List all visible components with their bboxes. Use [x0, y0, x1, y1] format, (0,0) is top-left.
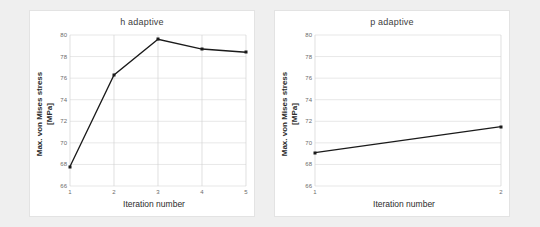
plot-area-h-adaptive: 666870727476788012345	[70, 35, 246, 186]
x-axis-tick-label: 1	[313, 189, 316, 195]
x-axis-tick-label: 2	[499, 189, 502, 195]
data-point-marker	[201, 48, 204, 51]
data-point-marker	[500, 125, 503, 128]
y-axis-tick-label: 78	[305, 54, 312, 60]
plot-area-p-adaptive: 666870727476788012	[315, 35, 501, 186]
y-axis-label-line2: [MPa]	[45, 71, 55, 155]
y-axis-tick-label: 68	[60, 161, 67, 167]
plot-svg-h-adaptive	[70, 35, 246, 186]
x-axis-tick-label: 1	[68, 189, 71, 195]
chart-panel-p-adaptive: p adaptive Max. von Mises stress [MPa] 6…	[274, 10, 510, 217]
plot-svg-p-adaptive	[315, 35, 501, 186]
y-axis-tick-label: 74	[60, 97, 67, 103]
y-axis-tick-label: 66	[60, 183, 67, 189]
chart-title-h-adaptive: h adaptive	[30, 17, 254, 27]
y-axis-tick-label: 80	[305, 32, 312, 38]
y-axis-label-line2: [MPa]	[290, 71, 300, 155]
y-axis-tick-label: 66	[305, 183, 312, 189]
data-point-marker	[314, 151, 317, 154]
y-axis-tick-label: 70	[60, 140, 67, 146]
x-axis-label-h-adaptive: Iteration number	[58, 199, 250, 209]
y-axis-label-line1: Max. von Mises stress	[35, 71, 45, 155]
y-axis-label-h-adaptive: Max. von Mises stress [MPa]	[32, 11, 58, 216]
data-series-line	[315, 127, 501, 153]
y-axis-label-line1: Max. von Mises stress	[280, 71, 290, 155]
y-axis-tick-label: 72	[60, 118, 67, 124]
y-axis-label-p-adaptive: Max. von Mises stress [MPa]	[277, 11, 303, 216]
x-axis-tick-label: 5	[244, 189, 247, 195]
x-axis-tick-label: 2	[112, 189, 115, 195]
y-axis-tick-label: 74	[305, 97, 312, 103]
data-point-marker	[69, 165, 72, 168]
y-axis-tick-label: 78	[60, 54, 67, 60]
x-axis-label-p-adaptive: Iteration number	[303, 199, 505, 209]
figure-container: h adaptive Max. von Mises stress [MPa] 6…	[0, 0, 540, 227]
y-axis-tick-label: 80	[60, 32, 67, 38]
y-axis-tick-label: 68	[305, 161, 312, 167]
chart-panel-h-adaptive: h adaptive Max. von Mises stress [MPa] 6…	[29, 10, 255, 217]
x-axis-tick-label: 4	[200, 189, 203, 195]
y-axis-tick-label: 70	[305, 140, 312, 146]
y-axis-tick-label: 76	[60, 75, 67, 81]
y-axis-tick-label: 76	[305, 75, 312, 81]
data-point-marker	[245, 51, 248, 54]
x-axis-tick-label: 3	[156, 189, 159, 195]
data-point-marker	[113, 73, 116, 76]
data-point-marker	[157, 38, 160, 41]
chart-title-p-adaptive: p adaptive	[275, 17, 509, 27]
y-axis-tick-label: 72	[305, 118, 312, 124]
